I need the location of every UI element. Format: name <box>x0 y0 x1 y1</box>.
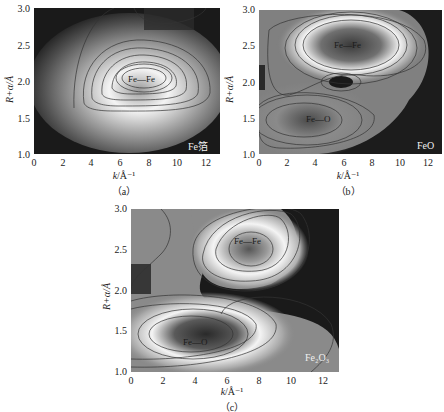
sample-label-a: Fe箔 <box>188 138 208 153</box>
sample-label-c: Fe₂O₃ <box>305 352 329 363</box>
x-axis-unit: /Å⁻¹ <box>225 386 243 397</box>
x-axis-label-c: k/Å⁻¹ <box>202 386 262 397</box>
xtick: 4 <box>305 158 325 168</box>
x-axis-label-a: k/Å⁻¹ <box>94 170 154 181</box>
ytick: 2.5 <box>6 41 30 51</box>
xtick: 0 <box>249 158 269 168</box>
xtick: 4 <box>185 376 205 386</box>
peak-label-fe-o-c: Fe—O <box>183 337 208 347</box>
xtick: 12 <box>313 376 333 386</box>
xtick: 8 <box>249 376 269 386</box>
xtick: 6 <box>110 158 130 168</box>
peak-label-fe-fe-b: Fe—Fe <box>334 40 361 50</box>
heatmap-c <box>131 209 339 372</box>
xtick: 2 <box>153 376 173 386</box>
xtick: 12 <box>196 158 216 168</box>
heatmap-b <box>259 10 442 154</box>
y-axis-label-b: R+α/Å <box>224 76 235 103</box>
ytick: 2.5 <box>103 245 127 255</box>
ytick: 1.5 <box>6 114 30 124</box>
ytick: 3.0 <box>6 4 30 14</box>
ytick: 3.0 <box>231 5 255 15</box>
xtick: 10 <box>167 158 187 168</box>
xtick: 8 <box>362 158 382 168</box>
y-axis-label-c: R+α/Å <box>101 283 112 310</box>
plot-area-a: Fe—Fe Fe箔 <box>34 8 220 154</box>
peak-label-fe-o-b: Fe—O <box>306 114 331 124</box>
x-axis-unit: /Å⁻¹ <box>117 170 135 181</box>
ytick: 1.5 <box>231 114 255 124</box>
heatmap-a <box>34 8 220 154</box>
sample-label-b: FeO <box>417 140 434 151</box>
xtick: 10 <box>281 376 301 386</box>
xtick: 12 <box>418 158 438 168</box>
y-axis-label-a: R+α/Å <box>4 76 15 103</box>
caption-c: （c） <box>212 399 252 412</box>
peak-label-fe-fe-c: Fe—Fe <box>234 236 261 246</box>
xtick: 8 <box>139 158 159 168</box>
panel-b: Fe—Fe Fe—O FeO 3.0 2.5 2.0 1.5 1.0 R+α/Å… <box>222 0 444 200</box>
caption-b: （b） <box>328 183 368 198</box>
xtick: 6 <box>334 158 354 168</box>
xtick: 10 <box>390 158 410 168</box>
xtick: 6 <box>217 376 237 386</box>
ytick: 3.0 <box>103 204 127 214</box>
xtick: 2 <box>277 158 297 168</box>
x-axis-unit: /Å⁻¹ <box>341 170 359 181</box>
xtick: 2 <box>53 158 73 168</box>
xtick: 0 <box>121 376 141 386</box>
ytick: 2.5 <box>231 41 255 51</box>
xtick: 4 <box>81 158 101 168</box>
panel-c: Fe—Fe Fe—O Fe₂O₃ 3.0 2.5 2.0 1.5 1.0 R+α… <box>100 200 350 412</box>
ytick: 1.5 <box>103 326 127 336</box>
panel-a: Fe—Fe Fe箔 3.0 2.5 2.0 1.5 1.0 R+α/Å 0 2 … <box>0 0 222 200</box>
x-axis-label-b: k/Å⁻¹ <box>318 170 378 181</box>
peak-label-fe-fe-a: Fe—Fe <box>128 74 155 84</box>
caption-a: （a） <box>104 183 144 198</box>
plot-area-c: Fe—Fe Fe—O Fe₂O₃ <box>131 209 339 372</box>
xtick: 0 <box>24 158 44 168</box>
plot-area-b: Fe—Fe Fe—O FeO <box>259 10 442 154</box>
